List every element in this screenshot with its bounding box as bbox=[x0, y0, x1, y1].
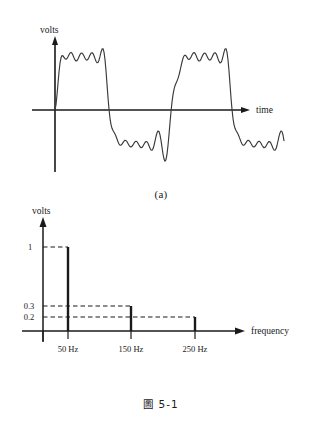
x-tick-label-150hz: 150 Hz bbox=[119, 344, 144, 354]
panel-a-y-axis-label: volts bbox=[40, 25, 59, 35]
waveform-trace bbox=[55, 49, 284, 162]
panel-a-x-axis bbox=[32, 107, 250, 113]
spectrum-svg: volts frequency bbox=[0, 200, 322, 380]
panel-b-y-axis-label: volts bbox=[32, 206, 51, 216]
panel-a-x-axis-label: time bbox=[256, 105, 273, 115]
x-tick-label-250hz: 250 Hz bbox=[183, 344, 208, 354]
panel-b-x-axis bbox=[22, 328, 245, 335]
y-tick-label-1: 1 bbox=[28, 242, 32, 252]
panel-b-x-axis-label: frequency bbox=[251, 326, 289, 336]
panel-b-y-axis bbox=[40, 217, 47, 342]
panel-a-waveform-chart: volts time (a) bbox=[0, 0, 322, 214]
panel-a-caption: (a) bbox=[0, 188, 322, 200]
figure-5-1: volts time (a) volts bbox=[0, 0, 322, 428]
panel-a-y-axis bbox=[52, 36, 58, 172]
waveform-svg: volts time bbox=[0, 0, 322, 214]
y-tick-label-03: 0.3 bbox=[24, 301, 35, 311]
x-tick-label-50hz: 50 Hz bbox=[58, 344, 79, 354]
panel-b-spectrum-chart: volts frequency bbox=[0, 200, 322, 428]
y-tick-label-02: 0.2 bbox=[24, 312, 35, 322]
figure-number-label: 圖 5-1 bbox=[0, 396, 322, 411]
